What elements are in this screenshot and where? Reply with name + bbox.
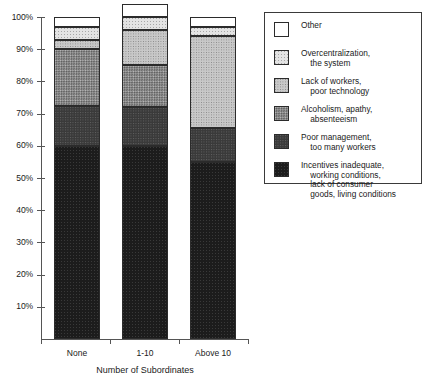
y-tick-mark (37, 307, 45, 308)
bar-segment (122, 65, 168, 107)
legend: OtherOvercentralization, the systemLack … (264, 12, 422, 184)
y-tick-mark (37, 81, 45, 82)
x-tick-mark (248, 339, 249, 344)
bar-column (122, 17, 168, 339)
legend-swatch (274, 134, 289, 149)
y-tick-label: 10% (0, 301, 33, 311)
legend-label: Alcoholism, apathy, absenteeism (301, 105, 372, 124)
y-tick-mark (37, 114, 45, 115)
legend-swatch (274, 106, 289, 121)
x-tick-mark (41, 339, 42, 344)
x-axis-title: Number of Subordinates (41, 365, 249, 375)
legend-label: Lack of workers, poor technology (301, 77, 369, 96)
y-tick-label: 80% (0, 76, 33, 86)
legend-label: Other (301, 21, 322, 31)
y-tick-label: 60% (0, 140, 33, 150)
y-tick-label: 40% (0, 205, 33, 215)
plot-area: 10%20%30%40%50%60%70%80%90%100% None1-10… (0, 0, 252, 381)
x-tick-label: Above 10 (173, 348, 253, 358)
legend-swatch (274, 50, 289, 65)
legend-item[interactable]: Lack of workers, poor technology (274, 77, 369, 96)
legend-swatch (274, 162, 289, 177)
y-tick-mark (37, 178, 45, 179)
bar-segment (54, 17, 100, 27)
y-tick-mark (37, 146, 45, 147)
bar-segment (122, 17, 168, 30)
y-tick-mark (37, 49, 45, 50)
bar-segment (190, 17, 236, 27)
bar-segment (122, 30, 168, 65)
stacked-bar-chart: 10%20%30%40%50%60%70%80%90%100% None1-10… (0, 0, 432, 381)
legend-swatch (274, 22, 289, 37)
legend-label: Overcentralization, the system (301, 49, 370, 68)
x-axis-line (41, 339, 249, 340)
y-tick-label: 100% (0, 12, 33, 22)
y-tick-label: 50% (0, 173, 33, 183)
y-tick-mark (37, 17, 45, 18)
bar-column (190, 17, 236, 339)
bar-segment (190, 27, 236, 37)
y-tick-label: 70% (0, 108, 33, 118)
legend-item[interactable]: Other (274, 21, 322, 37)
bar-segment (54, 27, 100, 40)
legend-item[interactable]: Poor management, too many workers (274, 133, 376, 152)
bar-segment (122, 107, 168, 146)
y-tick-label: 20% (0, 269, 33, 279)
bar-segment (122, 146, 168, 339)
y-tick-mark (37, 275, 45, 276)
y-tick-label: 90% (0, 44, 33, 54)
bar-segment (190, 36, 236, 128)
bar-segment (54, 146, 100, 339)
bar-segment (190, 162, 236, 339)
y-tick-label: 30% (0, 237, 33, 247)
x-tick-mark (179, 339, 180, 344)
legend-label: Poor management, too many workers (301, 133, 376, 152)
y-tick-mark (37, 210, 45, 211)
bar-column (54, 17, 100, 339)
bar-segment (54, 49, 100, 105)
legend-item[interactable]: Alcoholism, apathy, absenteeism (274, 105, 372, 124)
y-tick-mark (37, 242, 45, 243)
legend-label: Incentives inadequate, working condition… (301, 161, 396, 199)
legend-item[interactable]: Overcentralization, the system (274, 49, 370, 68)
legend-swatch (274, 78, 289, 93)
x-tick-mark (110, 339, 111, 344)
legend-item[interactable]: Incentives inadequate, working condition… (274, 161, 396, 199)
bar-segment (54, 106, 100, 146)
bar-segment (190, 128, 236, 162)
bar-segment (54, 40, 100, 50)
bar-segment (122, 4, 168, 17)
